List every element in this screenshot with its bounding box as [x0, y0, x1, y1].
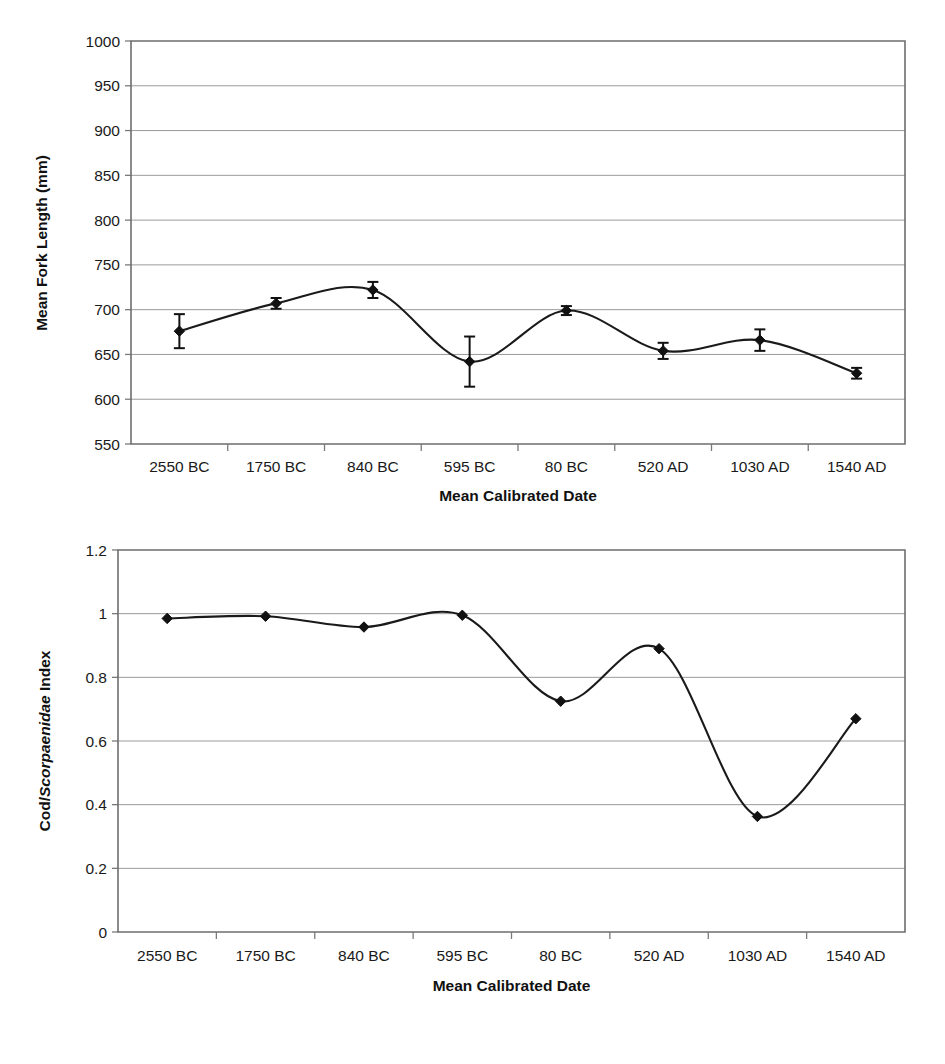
y-axis-tick-label: 0 [98, 924, 107, 941]
x-axis-title: Mean Calibrated Date [439, 487, 597, 504]
y-axis-tick-label: 1 [98, 605, 107, 622]
x-axis: 2550 BC1750 BC840 BC595 BC80 BC520 AD103… [149, 444, 886, 475]
x-axis-tick-label: 595 BC [436, 947, 488, 964]
data-point-marker [359, 622, 369, 632]
y-axis-tick-label: 650 [94, 346, 120, 363]
y-axis-tick-label: 0.2 [85, 860, 107, 877]
y-axis-tick-label: 0.8 [85, 669, 107, 686]
error-bars [174, 282, 862, 387]
data-point-marker [851, 368, 861, 378]
x-axis-tick-label: 80 BC [539, 947, 582, 964]
y-axis-tick-label: 550 [94, 436, 120, 453]
gridlines: 5506006507007508008509009501000 [86, 33, 905, 453]
y-axis-tick-label: 850 [94, 167, 120, 184]
data-point-marker [260, 611, 270, 621]
x-axis-tick-label: 1750 BC [235, 947, 295, 964]
x-axis-tick-label: 840 BC [347, 458, 399, 475]
y-axis-title: Cod/Scorpaenidae Index [36, 650, 53, 831]
x-axis-tick-label: 2550 BC [149, 458, 209, 475]
data-point-marker [555, 696, 565, 706]
data-markers [174, 285, 862, 379]
x-axis-title: Mean Calibrated Date [433, 977, 591, 994]
data-point-marker [271, 298, 281, 308]
x-axis-tick-label: 1750 BC [246, 458, 306, 475]
y-axis-tick-label: 750 [94, 256, 120, 273]
series-line [167, 612, 856, 818]
y-axis-tick-label: 1.2 [85, 542, 107, 559]
data-point-marker [457, 610, 467, 620]
data-point-marker [464, 356, 474, 366]
cod-scorpaenidae-index-chart: 00.20.40.60.811.22550 BC1750 BC840 BC595… [0, 520, 945, 1064]
chart-panel-cod-scorpaenidae-index: 00.20.40.60.811.22550 BC1750 BC840 BC595… [0, 520, 945, 1064]
x-axis-tick-label: 1540 AD [826, 947, 885, 964]
data-point-marker [755, 335, 765, 345]
y-axis-tick-label: 1000 [86, 33, 121, 50]
y-axis-tick-label: 700 [94, 301, 120, 318]
y-axis-title: Mean Fork Length (mm) [33, 155, 50, 331]
x-axis-tick-label: 840 BC [338, 947, 390, 964]
mean-fork-length-chart: 55060065070075080085090095010002550 BC17… [0, 0, 945, 520]
x-axis-tick-label: 520 AD [634, 947, 685, 964]
gridlines: 00.20.40.60.811.2 [85, 542, 905, 941]
y-axis-tick-label: 800 [94, 212, 120, 229]
y-axis-tick-label: 900 [94, 122, 120, 139]
data-point-marker [752, 811, 762, 821]
x-axis-tick-label: 520 AD [638, 458, 689, 475]
x-axis-tick-label: 595 BC [444, 458, 496, 475]
x-axis-tick-label: 2550 BC [137, 947, 197, 964]
plot-frame [131, 41, 905, 444]
y-axis-tick-label: 0.6 [85, 733, 107, 750]
data-point-marker [368, 285, 378, 295]
x-axis: 2550 BC1750 BC840 BC595 BC80 BC520 AD103… [137, 932, 886, 964]
x-axis-tick-label: 1030 AD [730, 458, 789, 475]
data-point-marker [174, 326, 184, 336]
y-axis-tick-label: 0.4 [85, 796, 107, 813]
x-axis-tick-label: 1540 AD [827, 458, 886, 475]
y-axis-tick-label: 600 [94, 391, 120, 408]
data-point-marker [162, 613, 172, 623]
x-axis-tick-label: 80 BC [545, 458, 588, 475]
y-axis-tick-label: 950 [94, 77, 120, 94]
x-axis-tick-label: 1030 AD [728, 947, 787, 964]
chart-panel-mean-fork-length: 55060065070075080085090095010002550 BC17… [0, 0, 945, 520]
data-markers [162, 610, 861, 822]
